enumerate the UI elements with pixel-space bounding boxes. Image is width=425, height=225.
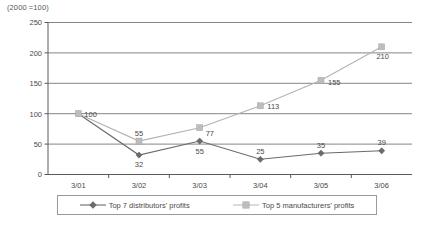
data-point-label: 25 (256, 147, 264, 156)
data-point-marker (136, 152, 142, 158)
series-line-distributors (78, 114, 381, 160)
data-point-labels-group: 10032552535395577113155210 (84, 52, 389, 169)
y-tick-label: 250 (29, 18, 42, 27)
data-point-marker (379, 44, 385, 50)
y-tick-label: 50 (34, 140, 42, 149)
data-point-marker (197, 125, 203, 131)
legend-label-distributors: Top 7 distributors' profits (109, 201, 190, 210)
square-marker-icon (233, 200, 259, 210)
x-axis-tick-labels: 3/013/023/033/043/053/06 (71, 181, 389, 190)
data-point-marker (136, 138, 142, 144)
data-point-marker (257, 156, 263, 162)
diamond-marker-icon (80, 200, 106, 210)
line-chart: (2000 =100) 050100150200250 3/013/023/03… (0, 0, 425, 225)
data-point-label: 39 (377, 138, 385, 147)
data-point-label: 155 (328, 78, 341, 87)
data-point-marker (318, 150, 324, 156)
legend-label-manufacturers: Top 5 manufacturers' profits (262, 201, 354, 210)
chart-legend: Top 7 distributors' profits Top 5 manufa… (57, 195, 377, 215)
y-axis-tick-labels: 050100150200250 (29, 18, 42, 179)
legend-item-manufacturers[interactable]: Top 5 manufacturers' profits (233, 200, 354, 210)
data-point-label: 210 (376, 52, 389, 61)
data-point-marker (197, 138, 203, 144)
data-point-label: 55 (135, 129, 143, 138)
legend-item-distributors[interactable]: Top 7 distributors' profits (80, 200, 190, 210)
data-point-label: 113 (267, 102, 279, 111)
x-tick-label: 3/06 (374, 181, 389, 190)
data-point-marker (75, 111, 81, 117)
y-tick-label: 200 (29, 49, 42, 58)
series-line-manufacturers (78, 47, 381, 141)
data-point-label: 32 (135, 160, 143, 169)
x-tick-label: 3/03 (192, 181, 207, 190)
data-point-label: 100 (84, 110, 97, 119)
x-tick-label: 3/04 (253, 181, 268, 190)
x-tick-label: 3/05 (314, 181, 329, 190)
series-markers-group (75, 44, 385, 163)
data-point-label: 77 (206, 129, 214, 138)
x-tick-label: 3/01 (71, 181, 86, 190)
data-point-label: 35 (317, 141, 325, 150)
data-point-marker (379, 148, 385, 154)
x-tick-label: 3/02 (132, 181, 147, 190)
y-tick-label: 150 (29, 79, 42, 88)
y-tick-label: 100 (29, 110, 42, 119)
data-point-marker (257, 103, 263, 109)
series-lines-group (78, 47, 381, 159)
data-point-marker (318, 77, 324, 83)
y-tick-label: 0 (38, 170, 42, 179)
plot-area: 050100150200250 3/013/023/033/043/053/06… (0, 0, 425, 225)
data-point-label: 55 (195, 147, 203, 156)
